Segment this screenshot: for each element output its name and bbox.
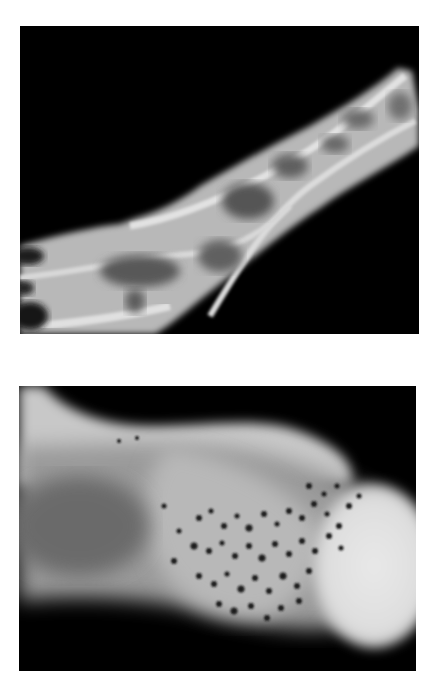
- radiograph-panel-top: [20, 26, 419, 334]
- radiograph-panel-bottom: [19, 386, 416, 671]
- bone-radiograph-bottom: [19, 386, 416, 671]
- bone-radiograph-top: [20, 26, 419, 334]
